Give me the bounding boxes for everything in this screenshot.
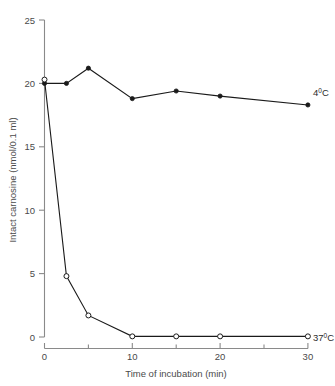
y-tick-label: 20 [24, 78, 35, 89]
series-37C [42, 77, 310, 339]
data-point [64, 81, 68, 85]
series-37C-line [45, 80, 308, 337]
data-point [218, 334, 223, 339]
line-chart: 25 20 15 10 5 0 0 10 20 30 Time of incub… [0, 0, 335, 386]
data-point [130, 97, 134, 101]
y-tick-label: 5 [30, 268, 35, 279]
series-label-37C: 370C [313, 332, 334, 344]
data-point [86, 66, 90, 70]
x-axis-title: Time of incubation (min) [125, 368, 227, 379]
series-4C [42, 66, 310, 107]
x-tick-label: 10 [127, 351, 138, 362]
data-point [218, 94, 222, 98]
data-point [306, 103, 310, 107]
data-point [174, 334, 179, 339]
data-point [64, 274, 69, 279]
series-4C-line [45, 68, 308, 105]
series-37C-markers [42, 77, 310, 339]
series-label-4C: 40C [313, 87, 329, 99]
data-point [305, 334, 310, 339]
y-axis-ticks [39, 20, 45, 337]
y-tick-label: 10 [24, 205, 35, 216]
x-axis-tick-labels: 0 10 20 30 [42, 351, 313, 362]
y-tick-label: 0 [30, 332, 35, 343]
chart-container: 25 20 15 10 5 0 0 10 20 30 Time of incub… [0, 0, 335, 386]
y-axis-title: Intact carnosine (nmol/0.1 ml) [7, 117, 18, 242]
y-axis-tick-labels: 25 20 15 10 5 0 [24, 15, 35, 343]
data-point [86, 313, 91, 318]
y-tick-label: 15 [24, 141, 35, 152]
data-point [130, 334, 135, 339]
data-point [42, 77, 47, 82]
x-tick-label: 20 [215, 351, 226, 362]
x-tick-label: 0 [42, 351, 47, 362]
y-tick-label: 25 [24, 15, 35, 26]
x-axis-ticks [45, 343, 308, 349]
data-point [174, 89, 178, 93]
x-tick-label: 30 [303, 351, 314, 362]
